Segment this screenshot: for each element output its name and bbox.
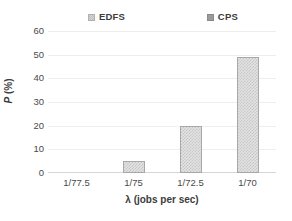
x-axis-ticks: 1/77.5 1/75 1/72.5 1/70 (48, 176, 276, 190)
bar-chart: EDFS CPS P (%) 60 50 40 30 20 10 0 (0, 0, 292, 221)
legend-entry-edfs: EDFS (88, 12, 125, 22)
legend-label-cps: CPS (218, 12, 238, 22)
legend-entry-cps: CPS (207, 12, 238, 22)
legend-label-edfs: EDFS (99, 12, 125, 22)
bars-layer (48, 31, 276, 173)
chart-legend: EDFS CPS (88, 9, 238, 25)
x-tick-label: 1/75 (105, 176, 162, 190)
x-tick-label: 1/72.5 (162, 176, 219, 190)
bar-group-4 (219, 31, 276, 173)
bar-group-1 (48, 31, 105, 173)
plot-area (48, 31, 276, 173)
bar-cps (180, 126, 202, 173)
x-axis-title: λ (jobs per sec) (48, 194, 276, 206)
x-tick-label: 1/70 (219, 176, 276, 190)
y-tick-label: 50 (0, 50, 44, 60)
x-tick-label: 1/77.5 (48, 176, 105, 190)
y-tick-label: 10 (0, 145, 44, 155)
y-tick-label: 0 (0, 168, 44, 178)
bar-group-2 (105, 31, 162, 173)
y-tick-label: 40 (0, 74, 44, 84)
y-tick-label: 30 (0, 97, 44, 107)
y-tick-label: 20 (0, 121, 44, 131)
bar-group-3 (162, 31, 219, 173)
bar-cps (123, 161, 145, 173)
y-axis-ticks: 60 50 40 30 20 10 0 (0, 31, 44, 173)
edfs-swatch-icon (88, 14, 95, 21)
cps-swatch-icon (207, 14, 214, 21)
bar-cps (237, 57, 259, 173)
y-tick-label: 60 (0, 26, 44, 36)
